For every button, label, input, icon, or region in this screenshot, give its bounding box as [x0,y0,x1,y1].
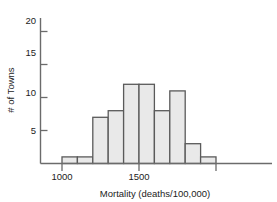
x-tick-label-1000: 1000 [51,171,72,182]
y-axis-ticks [41,32,48,131]
histogram-bar [124,84,139,163]
x-axis-ticks [62,164,216,172]
histogram-bar [185,144,200,164]
y-tick-label-20: 20 [25,15,36,26]
histogram-bar [154,111,169,164]
y-tick-label-10: 10 [25,87,36,98]
x-tick-label-1500: 1500 [128,171,149,182]
histogram-figure: 20 15 10 5 1000 1500 Mortality (deaths/1… [0,0,277,202]
histogram-bar [93,117,108,163]
y-axis-title: # of Towns [5,67,16,112]
y-tick-label-5: 5 [31,125,36,136]
histogram-bar [62,157,77,164]
histogram-bar [201,157,216,164]
y-tick-label-15: 15 [25,47,36,58]
histogram-bars [62,84,216,163]
histogram-bar [170,91,185,164]
histogram-bar [139,84,154,163]
histogram-bar [77,157,92,164]
x-axis-title: Mortality (deaths/100,000) [100,188,210,199]
histogram-plot-area: 20 15 10 5 1000 1500 Mortality (deaths/1… [0,0,277,202]
histogram-bar [108,111,123,164]
